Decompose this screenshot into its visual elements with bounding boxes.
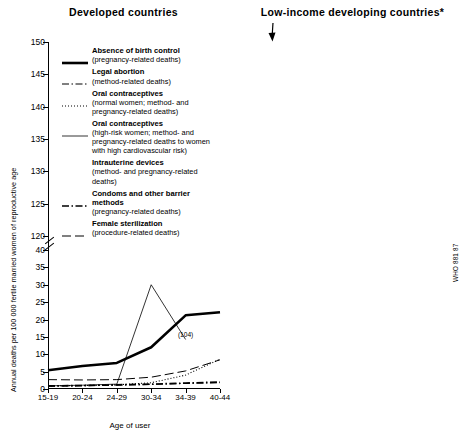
y-tick-label: 150 — [31, 37, 45, 47]
legend-sublabel: (high-risk women; method- and pregnancy-… — [92, 128, 214, 155]
legend-label: Oral contraceptives — [92, 119, 214, 128]
panel-low-income-developing-countries: Low-income developing countries* Annual … — [233, 0, 466, 448]
legend-item: Legal abortion(method-related deaths) — [62, 67, 214, 85]
legend-item: Condoms and other barrier methods(pregna… — [62, 189, 214, 217]
legend-key-swatch — [62, 51, 88, 54]
series-line — [48, 359, 220, 386]
y-tick-label: 145 — [31, 69, 45, 79]
y-tick-label: 35 — [36, 262, 45, 272]
y-tick-label: 130 — [31, 166, 45, 176]
y-tick-label: 140 — [31, 102, 45, 112]
legend-key-swatch — [62, 124, 88, 127]
legend-label: Oral contraceptives — [92, 89, 214, 98]
legend-sublabel: (method-related deaths) — [92, 77, 214, 86]
legend-item: Oral contraceptives(normal women; method… — [62, 89, 214, 116]
y-tick-label: 30 — [36, 280, 45, 290]
y-tick-label: 20 — [36, 315, 45, 325]
legend-item: Intrauterine devices(method- and pregnan… — [62, 158, 214, 185]
x-tick-label: 34-39 — [175, 393, 195, 402]
legend-sublabel: (method- and pregnancy-related deaths) — [92, 167, 214, 185]
y-tick-label: 5 — [40, 367, 45, 377]
x-tick-label: 15-19 — [38, 393, 58, 402]
legend-item: Female sterilization(procedure-related d… — [62, 219, 214, 237]
x-tick-label: 40-44 — [210, 393, 230, 402]
legend-key-swatch — [62, 163, 88, 166]
legend-item: Oral contraceptives(high-risk women; met… — [62, 119, 214, 155]
series-line — [48, 312, 220, 370]
legend-item: Absence of birth control(pregnancy-relat… — [62, 46, 214, 64]
panel-developed-countries: Developed countries Annual deaths per 10… — [0, 0, 233, 448]
y-tick-label: 135 — [31, 134, 45, 144]
legend-sublabel: (normal women; method- and pregnancy-rel… — [92, 98, 214, 116]
panel-title-right: Low-income developing countries* — [233, 6, 466, 18]
legend-sublabel: (procedure-related deaths) — [92, 228, 214, 237]
legend: Absence of birth control(pregnancy-relat… — [62, 46, 214, 240]
who-source-credit: WHO 881 87 — [452, 244, 459, 282]
legend-label: Female sterilization — [92, 219, 214, 228]
legend-label: Legal abortion — [92, 67, 214, 76]
y-tick-label: 125 — [31, 199, 45, 209]
x-tick-label: 30-34 — [141, 393, 161, 402]
legend-label: Absence of birth control — [92, 46, 214, 55]
legend-key-swatch — [62, 94, 88, 97]
data-point-annotation: (104) — [178, 331, 193, 338]
y-axis-label-left: Annual deaths per 100 000 fertile marrie… — [9, 168, 18, 392]
legend-key-swatch — [62, 224, 88, 227]
series-line — [48, 360, 220, 380]
x-tick-label: 20-24 — [72, 393, 92, 402]
x-axis-label-left: Age of user — [40, 421, 220, 430]
y-tick-label: 25 — [36, 297, 45, 307]
legend-sublabel: (pregnancy-related deaths) — [92, 207, 214, 216]
figure-root: Developed countries Annual deaths per 10… — [0, 0, 466, 448]
panel-title-left: Developed countries — [0, 6, 233, 18]
title-pointer-arrow-icon — [266, 22, 280, 44]
legend-label: Condoms and other barrier methods — [92, 189, 214, 208]
y-tick-label: 10 — [36, 349, 45, 359]
legend-sublabel: (pregnancy-related deaths) — [92, 55, 214, 64]
y-tick-label: 15 — [36, 332, 45, 342]
x-tick-label: 24-29 — [107, 393, 127, 402]
legend-key-swatch — [62, 194, 88, 197]
legend-key-swatch — [62, 72, 88, 75]
legend-label: Intrauterine devices — [92, 158, 214, 167]
